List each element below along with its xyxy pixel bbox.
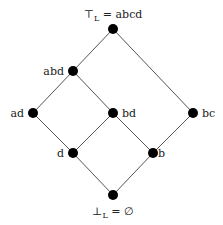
- node-bc: [188, 108, 198, 118]
- label-top: ⊤L = abcd: [84, 8, 143, 23]
- label-abd: abd: [43, 65, 64, 78]
- edge-d-bottom: [73, 153, 113, 195]
- node-bd: [108, 108, 118, 118]
- edge-abd-bd: [73, 71, 113, 113]
- edge-ad-d: [33, 113, 73, 153]
- label-d: d: [57, 147, 64, 160]
- lattice-diagram: ⊤L = abcd abd ad bd bc d b ⊥L = ∅: [0, 0, 223, 225]
- node-bottom: [108, 190, 118, 200]
- label-bottom: ⊥L = ∅: [92, 205, 134, 220]
- label-bd: bd: [122, 107, 136, 120]
- node-top: [108, 24, 118, 34]
- edge-b-bottom: [113, 153, 153, 195]
- node-abd: [68, 66, 78, 76]
- node-b: [148, 148, 158, 158]
- label-ad: ad: [10, 107, 24, 120]
- edge-bd-d: [73, 113, 113, 153]
- label-b: b: [158, 147, 165, 160]
- node-d: [68, 148, 78, 158]
- nodes: [28, 24, 198, 200]
- edge-top-abd: [73, 29, 113, 71]
- label-bc: bc: [202, 107, 215, 120]
- node-ad: [28, 108, 38, 118]
- edge-top-bc: [113, 29, 193, 113]
